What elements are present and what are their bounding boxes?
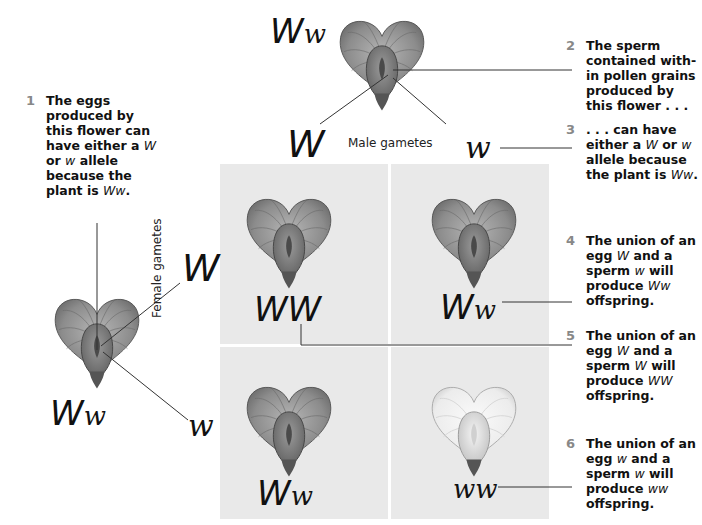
note-text: .: [693, 167, 698, 182]
note-1: 1 The eggs produced by this flower can h…: [46, 93, 164, 198]
genotype-dominant: W: [270, 11, 304, 51]
male-allele-w: w: [465, 130, 491, 165]
male-parent-genotype: Ww: [270, 14, 326, 48]
note-4: 4 The union of an egg W and a sperm w wi…: [586, 233, 702, 308]
note-5: 5 The union of an egg W and a sperm W wi…: [586, 328, 702, 403]
grid-horizontal-divider: [220, 344, 549, 347]
allele-symbol: w: [681, 137, 691, 152]
male-allele-W: W: [287, 122, 325, 166]
leader-female-w: [103, 352, 188, 420]
allele-symbol: w: [617, 451, 627, 466]
note-text: The eggs produced by this flower can hav…: [46, 93, 150, 153]
genotype-symbol: Ww: [671, 167, 694, 182]
allele-symbol: w: [65, 153, 75, 168]
note-text: .: [126, 183, 131, 198]
genotype-recessive: w: [291, 481, 313, 511]
leader-male-w: [393, 78, 446, 124]
genotype-symbol: ww: [648, 481, 668, 496]
leader-female-W: [101, 283, 180, 346]
genotype-dominant: W: [257, 473, 291, 513]
note-number: 3: [566, 122, 575, 137]
punnett-grid: [220, 164, 549, 519]
note-text: offspring.: [586, 388, 654, 403]
note-number: 1: [26, 93, 35, 108]
note-text: offspring.: [586, 496, 654, 511]
note-text: offspring.: [586, 293, 654, 308]
offspring-genotype-Ww-bottom: Ww: [257, 476, 313, 510]
genotype-recessive: w: [474, 295, 496, 325]
allele-symbol: w: [634, 263, 644, 278]
genotype-recessive: ww: [453, 474, 498, 504]
note-number: 6: [566, 436, 575, 451]
female-parent-flower: [55, 299, 139, 388]
offspring-genotype-ww: ww: [453, 476, 498, 502]
note-number: 5: [566, 328, 575, 343]
note-text: or: [46, 153, 65, 168]
note-number: 2: [566, 38, 575, 53]
grid-vertical-divider: [388, 164, 391, 519]
genotype-symbol: WW: [648, 373, 673, 388]
offspring-genotype-Ww-top: Ww: [440, 290, 496, 324]
genotype-symbol: Ww: [103, 183, 126, 198]
note-text: The sperm contained with-in pollen grain…: [586, 38, 696, 113]
allele-symbol: W: [634, 358, 646, 373]
allele-symbol: W: [645, 137, 657, 152]
note-number: 4: [566, 233, 575, 248]
allele-symbol: w: [634, 466, 644, 481]
genotype-recessive: w: [84, 401, 106, 431]
note-2: 2 The sperm contained with-in pollen gra…: [586, 38, 702, 113]
note-text: or: [658, 137, 681, 152]
male-parent-flower: [340, 21, 424, 110]
genotype-text: WW: [254, 289, 321, 329]
female-allele-w: w: [188, 408, 214, 443]
genotype-symbol: Ww: [648, 278, 671, 293]
allele-symbol: W: [144, 138, 156, 153]
genotype-recessive: w: [304, 19, 326, 49]
genotype-dominant: W: [50, 393, 84, 433]
female-parent-genotype: Ww: [50, 396, 106, 430]
note-6: 6 The union of an egg w and a sperm w wi…: [586, 436, 702, 511]
male-gametes-label: Male gametes: [348, 136, 433, 150]
genotype-dominant: W: [440, 287, 474, 327]
allele-symbol: W: [617, 248, 629, 263]
note-3: 3 . . . can have either a W or w allele …: [586, 122, 702, 182]
female-allele-W: W: [182, 246, 220, 290]
allele-symbol: W: [617, 343, 629, 358]
female-gametes-label: Female gametes: [150, 218, 164, 318]
leader-male-W: [320, 75, 388, 124]
offspring-genotype-WW: WW: [254, 292, 321, 326]
